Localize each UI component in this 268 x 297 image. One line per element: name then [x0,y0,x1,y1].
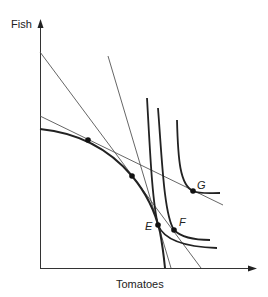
label-g: G [197,179,206,191]
point-e [155,222,161,228]
label-f: F [179,216,187,228]
price-line-outer [40,52,201,268]
ppf-curve [40,129,165,268]
axes [38,19,258,272]
point-tangent-2 [129,173,135,179]
price-lines [40,52,223,268]
y-axis-label: Fish [11,18,32,30]
point-g [190,188,196,194]
x-axis-arrow-icon [248,266,257,272]
point-tangent-1 [85,137,91,143]
label-e: E [145,220,153,232]
x-axis-label: Tomatoes [116,278,164,290]
ppf-diagram: Fish Tomatoes E F G [0,0,268,297]
y-axis-arrow-icon [38,19,44,28]
point-f [171,227,177,233]
